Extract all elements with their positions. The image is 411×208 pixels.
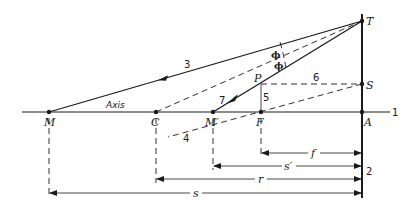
reflected-ray-arrow-icon (226, 94, 238, 104)
label-p: P (253, 72, 262, 85)
label-t: T (366, 15, 375, 28)
point-m-prime (211, 110, 215, 114)
angle-phi-upper: ϕ (271, 49, 280, 60)
incident-ray (49, 21, 362, 112)
line-number-3: 3 (184, 59, 190, 70)
label-m-prime: M′ (204, 116, 219, 129)
angle-phi-lower: ϕ (274, 60, 283, 71)
line-number-2: 2 (366, 166, 372, 177)
line-number-1: 1 (392, 107, 398, 118)
line-number-6: 6 (313, 72, 319, 83)
axis-label: Axis (105, 100, 125, 110)
label-a: A (363, 116, 372, 129)
point-c (154, 110, 158, 114)
line-number-5: 5 (263, 92, 269, 103)
dimension-label-r: r (258, 173, 264, 186)
dimension-label-s-prime: s′ (284, 160, 293, 173)
point-t (360, 19, 364, 23)
point-f (259, 110, 263, 114)
line-number-7: 7 (219, 95, 225, 106)
point-m (47, 110, 51, 114)
ray-diagram: M C M′ F A T S P Axis ϕ ϕ 1 2 3 4 5 6 7 … (0, 0, 411, 208)
label-s: S (366, 79, 374, 92)
dimension-label-s: s (193, 187, 199, 200)
label-f: F (255, 116, 264, 129)
label-c: C (151, 116, 160, 129)
incident-ray-arrow-icon (158, 75, 168, 81)
line-number-4: 4 (183, 133, 189, 144)
label-m: M (43, 116, 56, 129)
point-a (360, 110, 364, 114)
point-s (360, 82, 364, 86)
